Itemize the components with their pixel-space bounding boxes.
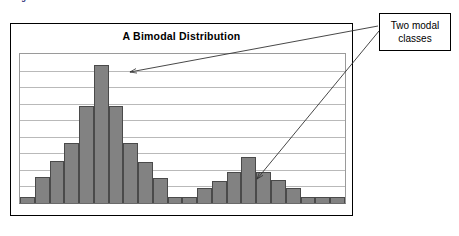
histogram-bar bbox=[20, 197, 35, 203]
histogram-bar bbox=[109, 106, 124, 203]
histogram-bar bbox=[153, 178, 168, 203]
histogram-bar bbox=[271, 180, 286, 203]
histogram-bars bbox=[20, 54, 345, 203]
histogram-bar bbox=[301, 197, 316, 203]
chart-frame: A Bimodal Distribution bbox=[10, 23, 353, 216]
histogram-bar bbox=[197, 188, 212, 203]
histogram-bar bbox=[138, 162, 153, 203]
histogram-bar bbox=[50, 161, 65, 203]
histogram-bar bbox=[79, 106, 94, 203]
histogram-bar bbox=[330, 197, 345, 203]
chart-title: A Bimodal Distribution bbox=[11, 30, 352, 42]
plot-area bbox=[19, 53, 346, 204]
annotation-callout-box: Two modal classes bbox=[379, 13, 451, 51]
histogram-bar bbox=[94, 65, 109, 203]
histogram-bar bbox=[256, 172, 271, 203]
histogram-bar bbox=[212, 181, 227, 203]
histogram-bar bbox=[35, 177, 50, 203]
histogram-bar bbox=[123, 143, 138, 203]
histogram-bar bbox=[241, 157, 256, 203]
page-caption: Histogram of a Bimodal Distribution bbox=[2, 0, 134, 3]
histogram-bar bbox=[315, 197, 330, 203]
histogram-bar bbox=[227, 172, 242, 203]
histogram-bar bbox=[182, 197, 197, 203]
annotation-callout-label: Two modal classes bbox=[383, 19, 447, 45]
histogram-bar bbox=[168, 197, 183, 203]
histogram-bar bbox=[64, 143, 79, 203]
histogram-bar bbox=[286, 188, 301, 203]
